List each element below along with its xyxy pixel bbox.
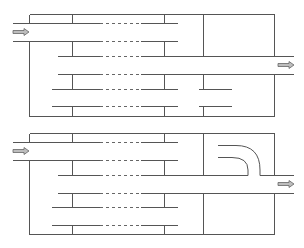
outlet-arrow-icon [278,62,294,69]
panel-bottom [13,134,295,235]
inlet-arrow-icon [13,148,29,155]
outlet-pipe-top [141,57,294,75]
plates-left-top [52,57,100,107]
plates-dashed-bottom [100,143,141,226]
frame-bottom [30,134,275,235]
plates-right-bottom [141,143,178,226]
outlet-pipe-bottom [141,176,294,194]
outlet-arrow-icon [278,181,294,188]
plates-left-bottom [52,176,100,226]
inlet-arrow-icon [13,29,29,36]
diagram-canvas: straight-outlet configuration elbow-outl… [0,0,304,248]
elbow-outlet [218,146,260,176]
panel-top [13,15,295,117]
frame-top [30,15,275,117]
plates-right-top [141,24,178,107]
plates-dashed-top [100,24,141,107]
outlet-chamber-top [199,15,232,117]
